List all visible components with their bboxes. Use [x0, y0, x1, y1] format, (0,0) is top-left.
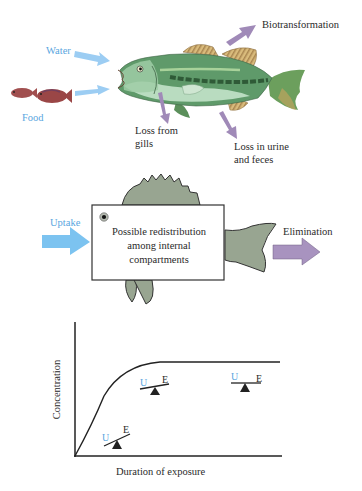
x-axis-label: Duration of exposure [116, 465, 205, 478]
balance-early-e: E [123, 425, 129, 435]
balance-early-u: U [102, 433, 109, 443]
loss-urine-feces-label: Loss in urine and feces [234, 140, 289, 166]
biotransformation-arrow-icon [226, 25, 256, 46]
food-label: Food [22, 111, 44, 124]
uptake-label: Uptake [50, 216, 80, 229]
water-label: Water [46, 44, 71, 57]
water-arrow-icon [74, 51, 110, 66]
balance-steady-e: E [256, 374, 262, 384]
prey-fish-icon [11, 88, 72, 103]
loss-urine-feces-line-1: Loss in urine [234, 140, 289, 153]
bass-fish-illustration [118, 44, 305, 118]
y-axis-label: Concentration [51, 350, 62, 430]
urine-feces-arrow-icon [219, 111, 237, 139]
balance-scale-icon-steady [231, 383, 261, 392]
uptake-arrow-icon [42, 227, 90, 255]
redistribution-box-text: Possible redistribution among internal c… [93, 225, 225, 267]
box-text-line-3: compartments [93, 253, 225, 267]
box-text-line-2: among internal [93, 239, 225, 253]
loss-from-gills-label: Loss from gills [135, 124, 178, 150]
loss-urine-feces-line-2: and feces [234, 153, 289, 166]
loss-from-gills-line-2: gills [135, 137, 178, 150]
food-arrow-icon [75, 85, 110, 96]
balance-mid-e: E [162, 375, 168, 385]
balance-steady-u: U [231, 372, 238, 382]
biotransformation-label: Biotransformation [262, 18, 339, 31]
loss-from-gills-line-1: Loss from [135, 124, 178, 137]
box-text-line-1: Possible redistribution [93, 225, 225, 239]
elimination-arrow-icon [273, 238, 320, 265]
balance-mid-u: U [140, 378, 147, 388]
elimination-label: Elimination [283, 225, 333, 238]
